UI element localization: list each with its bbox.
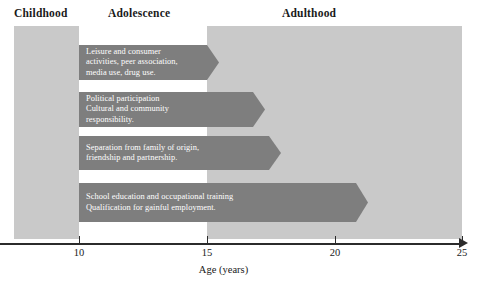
task-arrow-label: School education and occupational traini… <box>86 192 233 213</box>
axis-tick <box>207 236 208 244</box>
era-band-childhood <box>14 26 79 239</box>
task-arrow-separation: Separation from family of origin, friend… <box>79 136 269 170</box>
axis-line <box>0 243 462 245</box>
life-phase-timeline-figure: Childhood Adolescence Adulthood Leisure … <box>0 0 487 288</box>
axis-tick <box>462 236 463 244</box>
task-arrow-label: Political participation Cultural and com… <box>86 94 169 126</box>
axis-tick <box>335 236 336 244</box>
task-arrow-label: Separation from family of origin, friend… <box>86 143 199 164</box>
task-arrow-political: Political participation Cultural and com… <box>79 92 253 127</box>
axis-tick-label: 10 <box>74 247 85 258</box>
task-arrow-leisure: Leisure and consumer activities, peer as… <box>79 45 207 80</box>
axis-tick-label: 25 <box>457 247 468 258</box>
axis-tick-label: 15 <box>202 247 213 258</box>
era-label-childhood: Childhood <box>14 7 68 19</box>
axis-tick <box>79 236 80 244</box>
task-arrow-label: Leisure and consumer activities, peer as… <box>86 47 178 79</box>
era-label-adolescence: Adolescence <box>108 7 170 19</box>
axis-tick-label: 20 <box>330 247 341 258</box>
task-arrow-school: School education and occupational traini… <box>79 183 356 222</box>
axis-title: Age (years) <box>0 264 487 275</box>
era-label-adulthood: Adulthood <box>282 7 336 19</box>
axis-title-text: Age (years) <box>199 264 248 275</box>
